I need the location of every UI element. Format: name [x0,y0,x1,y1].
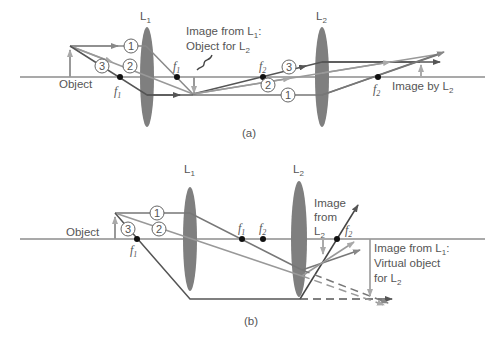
image-l2-label-line2-b: from [314,211,337,223]
panel-b: 1 2 3 L1 L2 Object f1 f1 f2 f2 Image fro… [20,163,485,327]
f2-left-label-a: f2 [259,59,266,75]
lens-1-label-b: L1 [184,163,195,178]
image-l2-label-line3-b: L2 [314,225,325,240]
lens-2-label-a: L2 [316,10,327,25]
svg-text:2: 2 [127,60,133,72]
image-l1-label-line1-a: Image from L1: [186,25,261,40]
ray-number-2-right-a: 2 [261,78,275,92]
image-l1-label-line2-a: Object for L2 [186,40,250,55]
panel-a: 1 2 3 3 2 1 L1 L2 Object f1 f1 f2 [20,10,485,139]
object-label-b: Object [66,226,100,238]
svg-text:3: 3 [125,223,131,235]
ray-number-1-left-a: 1 [124,39,138,53]
svg-text:3: 3 [286,61,292,73]
f1-right-label-a: f1 [173,59,180,75]
virtual-object-label-line1-b: Image from L1: [374,242,449,257]
svg-text:2: 2 [156,223,162,235]
svg-text:1: 1 [285,89,291,101]
object-label-a: Object [59,78,93,90]
ray-number-2-left-a: 2 [123,59,137,73]
svg-text:1: 1 [154,207,160,219]
focal-point-f1-left-a [117,74,123,80]
svg-text:3: 3 [99,60,105,72]
f2-right-label-b: f2 [345,223,352,239]
two-lens-ray-diagram: 1 2 3 3 2 1 L1 L2 Object f1 f1 f2 [0,0,495,341]
focal-point-f1-left-b [134,236,140,242]
f2-left-label-b: f2 [259,221,266,237]
lens-2-a [315,27,329,127]
pointer-squiggle-a [197,55,212,70]
image-l2-label-a: Image by L2 [392,80,454,95]
focal-point-f2-right-a [375,74,381,80]
lens-1-label-a: L1 [140,10,151,25]
ray-number-1-b: 1 [150,206,164,220]
lens-2-b [291,181,307,297]
ray-number-2-b: 2 [152,222,166,236]
f1-left-label-a: f1 [114,84,121,100]
svg-text:1: 1 [128,40,134,52]
image-l2-label-line1-b: Image [314,197,346,209]
ray-number-3-right-a: 3 [282,60,296,74]
caption-b: (b) [244,315,258,327]
ray-number-1-right-a: 1 [281,88,295,102]
focal-point-f2-right-b [334,236,340,242]
ray-number-3-b: 3 [121,222,135,236]
svg-text:2: 2 [265,79,271,91]
ray-number-3-left-a: 3 [95,59,109,73]
f2-right-label-a: f2 [373,82,380,98]
f1-left-label-b: f1 [130,243,137,259]
virtual-object-label-line3-b: for L2 [374,272,402,287]
lens-1-a [140,27,154,127]
lens-2-label-b: L2 [293,163,304,178]
caption-a: (a) [242,127,256,139]
virtual-object-label-line2-b: Virtual object [374,257,441,269]
f1-right-label-b: f1 [238,221,245,237]
